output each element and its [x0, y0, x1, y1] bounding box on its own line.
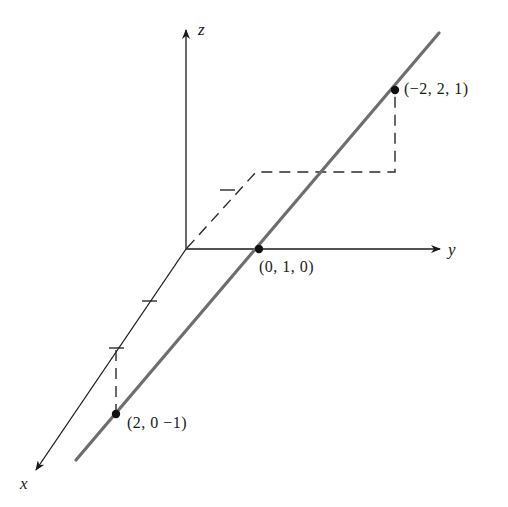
dashed-projection-upper [187, 91, 395, 248]
diagram-canvas: z y x (0, 1, 0) (−2, 2, 1) (2, 0 −1) [0, 0, 508, 507]
y-axis-label: y [448, 240, 456, 260]
point-0-1-0 [255, 245, 263, 253]
point-label-neg2-2-1: (−2, 2, 1) [404, 80, 469, 98]
point-label-2-0-neg1: (2, 0 −1) [127, 414, 187, 432]
z-axis-label: z [198, 20, 205, 40]
point-label-0-1-0: (0, 1, 0) [259, 258, 314, 276]
diagram-svg [0, 0, 508, 507]
point-neg2-2-1 [391, 86, 399, 94]
x-axis-label: x [20, 474, 28, 494]
point-2-0-neg1 [112, 410, 120, 418]
